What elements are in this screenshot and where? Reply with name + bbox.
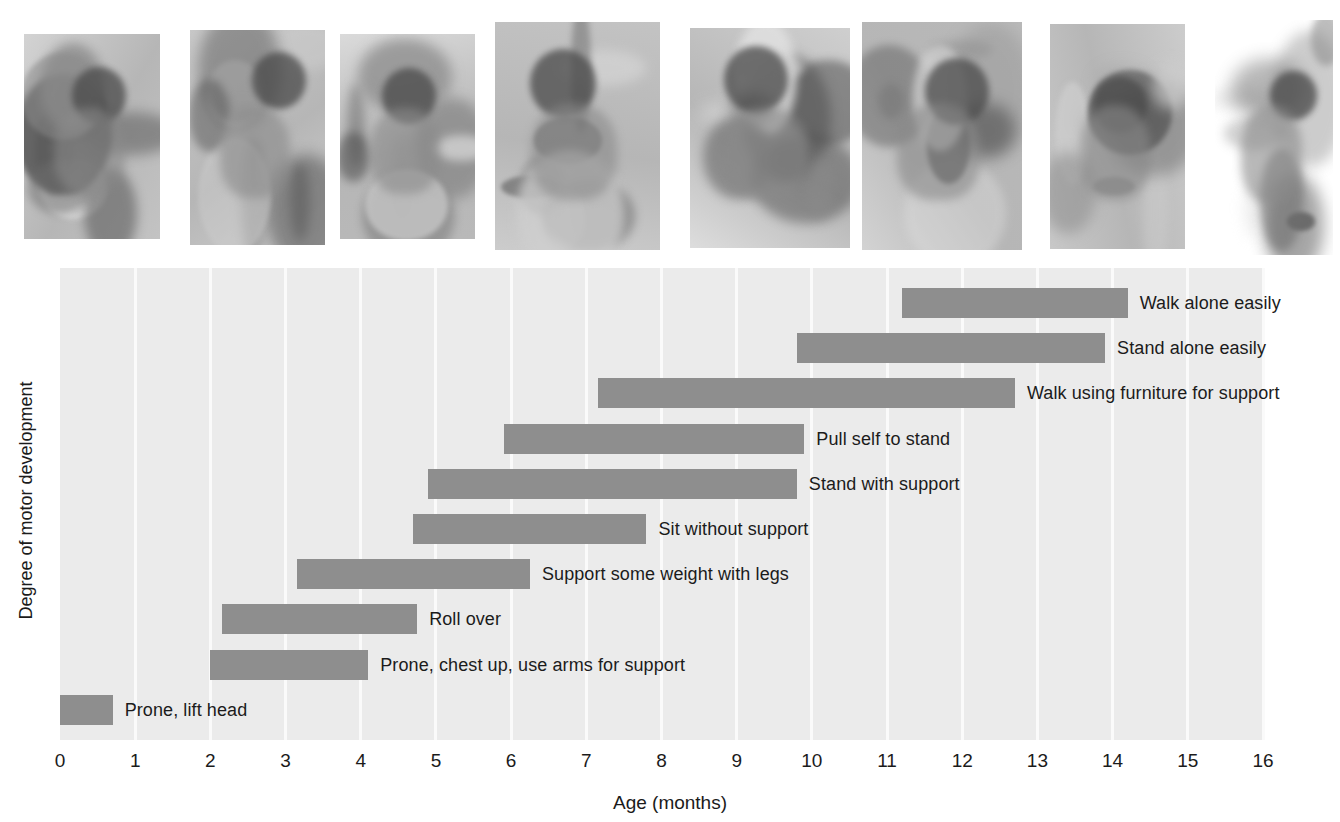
photo-stand-with-support bbox=[862, 22, 1022, 250]
photo-strip bbox=[0, 0, 1340, 268]
x-tick-label: 8 bbox=[656, 750, 667, 772]
milestone-bar bbox=[210, 650, 368, 680]
photo-image bbox=[1050, 24, 1185, 249]
milestone-label: Prone, chest up, use arms for support bbox=[380, 650, 685, 680]
x-tick-label: 2 bbox=[205, 750, 216, 772]
photo-detail bbox=[1080, 105, 1150, 200]
photo-pull-self-to-stand bbox=[690, 28, 850, 248]
photo-image bbox=[190, 30, 325, 245]
photo-detail bbox=[290, 163, 310, 241]
milestone-bar bbox=[222, 604, 417, 634]
x-tick-label: 16 bbox=[1252, 750, 1273, 772]
milestone-bar bbox=[902, 288, 1128, 318]
milestone-label: Sit without support bbox=[658, 514, 808, 544]
milestone-bar bbox=[60, 695, 113, 725]
milestone-label: Pull self to stand bbox=[816, 424, 950, 454]
x-tick-label: 9 bbox=[731, 750, 742, 772]
gridline bbox=[735, 268, 738, 740]
photo-detail bbox=[370, 108, 440, 194]
x-tick-label: 12 bbox=[952, 750, 973, 772]
photo-detail bbox=[1241, 105, 1302, 204]
photo-image bbox=[340, 34, 475, 239]
photo-image bbox=[690, 28, 850, 248]
photo-walk-alone bbox=[1215, 20, 1333, 255]
milestone-label: Walk using furniture for support bbox=[1027, 378, 1280, 408]
photo-roll-over bbox=[190, 30, 325, 245]
photo-detail bbox=[1152, 63, 1185, 109]
x-tick-label: 10 bbox=[801, 750, 822, 772]
x-tick-label: 13 bbox=[1027, 750, 1048, 772]
plot-area: Walk alone easilyStand alone easilyWalk … bbox=[60, 268, 1263, 740]
gridline bbox=[134, 268, 137, 740]
milestone-bar bbox=[598, 378, 1015, 408]
photo-detail bbox=[897, 104, 980, 200]
photo-walk-with-help bbox=[1050, 24, 1185, 249]
milestone-label: Prone, lift head bbox=[125, 695, 248, 725]
x-tick-label: 7 bbox=[581, 750, 592, 772]
x-axis-title: Age (months) bbox=[0, 792, 1340, 814]
photo-detail bbox=[54, 108, 125, 194]
milestone-bar bbox=[297, 559, 530, 589]
milestone-label: Roll over bbox=[429, 604, 501, 634]
y-axis-title: Degree of motor development bbox=[16, 261, 37, 741]
x-tick-label: 6 bbox=[506, 750, 517, 772]
photo-detail bbox=[252, 52, 306, 109]
milestones-chart: Walk alone easilyStand alone easilyWalk … bbox=[0, 268, 1340, 822]
photo-detail bbox=[804, 156, 834, 219]
milestone-bar bbox=[428, 469, 796, 499]
x-tick-label: 5 bbox=[431, 750, 442, 772]
photo-detail bbox=[220, 107, 290, 197]
gridline bbox=[1111, 268, 1114, 740]
x-tick-label: 1 bbox=[130, 750, 141, 772]
photo-image bbox=[862, 22, 1022, 250]
photo-sit-without-support bbox=[495, 22, 660, 250]
x-tick-label: 0 bbox=[55, 750, 66, 772]
photo-detail bbox=[531, 104, 617, 200]
x-tick-label: 15 bbox=[1177, 750, 1198, 772]
x-tick-label: 4 bbox=[355, 750, 366, 772]
photo-detail bbox=[725, 107, 808, 199]
milestone-label: Walk alone easily bbox=[1140, 288, 1281, 318]
x-tick-label: 14 bbox=[1102, 750, 1123, 772]
milestone-bar bbox=[413, 514, 646, 544]
photo-image bbox=[1215, 20, 1333, 255]
milestone-bar bbox=[797, 333, 1105, 363]
milestone-label: Stand alone easily bbox=[1117, 333, 1266, 363]
milestone-bar bbox=[504, 424, 805, 454]
photo-image bbox=[495, 22, 660, 250]
photo-prone-lift-head bbox=[24, 34, 160, 239]
milestone-label: Stand with support bbox=[809, 469, 960, 499]
milestone-label: Support some weight with legs bbox=[542, 559, 789, 589]
photo-detail bbox=[724, 46, 788, 113]
x-tick-label: 3 bbox=[280, 750, 291, 772]
photo-support-weight-on-legs bbox=[340, 34, 475, 239]
x-tick-label: 11 bbox=[877, 750, 897, 772]
photo-image bbox=[24, 34, 160, 239]
